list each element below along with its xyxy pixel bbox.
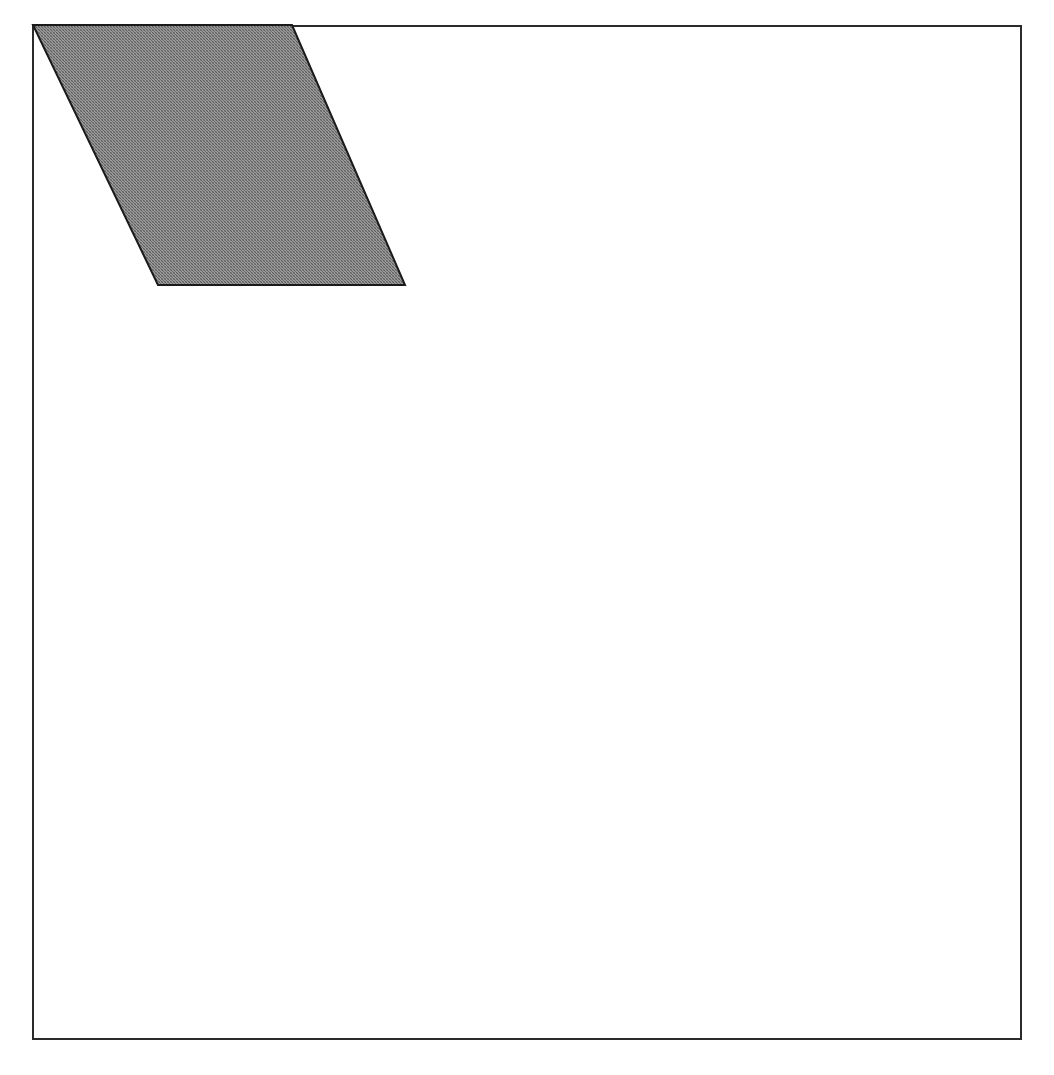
figure-caption [33,1056,1021,1075]
figure-page [0,0,1054,1075]
figure-canvas [0,0,1054,1075]
